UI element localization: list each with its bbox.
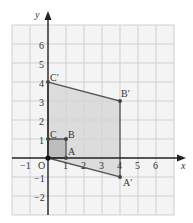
x-axis-label: x	[181, 161, 185, 171]
x-tick-neg1: −1	[20, 161, 31, 171]
point-A-prime	[118, 175, 122, 179]
x-tick-2: 2	[81, 161, 86, 171]
y-tick-3: 3	[39, 98, 44, 108]
label-A: A	[68, 147, 75, 157]
x-tick-3: 3	[99, 161, 104, 171]
y-tick-1: 1	[39, 136, 44, 146]
y-tick-neg2: −2	[34, 193, 45, 203]
label-B-prime: B′	[121, 89, 130, 99]
label-C: C	[50, 130, 57, 140]
label-A-prime: A′	[123, 178, 132, 188]
point-O	[45, 155, 50, 160]
origin-label: O	[38, 161, 45, 171]
y-tick-2: 2	[39, 117, 44, 127]
y-axis-arrow-icon	[45, 11, 52, 20]
original-square	[48, 139, 66, 158]
x-tick-6: 6	[153, 161, 158, 171]
x-tick-5: 5	[135, 161, 140, 171]
label-C-prime: C′	[50, 73, 59, 83]
coordinate-grid	[0, 0, 193, 223]
y-tick-6: 6	[39, 41, 44, 51]
y-axis-label: y	[35, 10, 39, 20]
point-B-prime	[118, 99, 122, 103]
y-tick-5: 5	[39, 60, 44, 70]
y-tick-4: 4	[39, 79, 44, 89]
x-tick-4: 4	[117, 161, 122, 171]
y-tick-neg1: −1	[34, 174, 45, 184]
x-tick-1: 1	[63, 161, 68, 171]
label-B: B	[68, 130, 75, 140]
